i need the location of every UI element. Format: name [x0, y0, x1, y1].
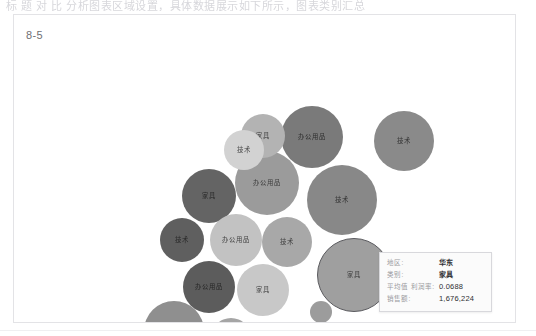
- bubble-label: 家具: [347, 271, 361, 279]
- bubble[interactable]: 技术: [374, 111, 434, 171]
- bubble-label: 办公用品: [222, 236, 250, 244]
- bubble[interactable]: 办公用品: [210, 214, 262, 266]
- tooltip-key: 销售额:: [387, 293, 439, 305]
- bubble-label: 办公用品: [253, 179, 281, 187]
- bubble-label: 办公用品: [195, 283, 223, 291]
- tooltip-key: 平均值 利润率:: [387, 281, 439, 293]
- bubble[interactable]: 办公用品: [183, 261, 235, 313]
- bubble-label: 技术: [397, 137, 411, 145]
- bubble-label: 技术: [237, 146, 251, 154]
- tooltip-value: 华东: [439, 257, 453, 269]
- tooltip-key: 地区:: [387, 257, 439, 269]
- bubble[interactable]: [310, 301, 332, 322]
- panel-title: 8-5: [26, 29, 43, 42]
- bubble[interactable]: 技术: [224, 130, 264, 170]
- bubble[interactable]: 技术: [262, 217, 312, 267]
- bubble[interactable]: 家具: [237, 264, 289, 316]
- tooltip-value: 家具: [439, 269, 453, 281]
- bubble-label: 办公用品: [298, 133, 326, 141]
- tooltip-value: 1,676,224: [439, 293, 474, 305]
- bubble-label: 家具: [256, 286, 270, 294]
- tooltip-row: 类别:家具: [387, 269, 485, 281]
- bubble[interactable]: 技术: [160, 218, 204, 262]
- page-bottom-rule: [0, 330, 536, 331]
- bubble-label: 技术: [335, 196, 349, 204]
- bubble[interactable]: 办公用品: [281, 106, 343, 168]
- bubble[interactable]: 技术: [307, 165, 377, 235]
- tooltip-row: 销售额:1,676,224: [387, 293, 485, 305]
- tooltip-row: 地区:华东: [387, 257, 485, 269]
- tooltip-value: 0.0688: [439, 281, 463, 293]
- bubble[interactable]: [211, 318, 251, 322]
- tooltip-row: 平均值 利润率:0.0688: [387, 281, 485, 293]
- chart-tooltip: 地区:华东类别:家具平均值 利润率:0.0688销售额:1,676,224: [379, 252, 492, 312]
- dashboard-panel: 8-5 家具技术办公用品办公用品技术家具家具办公用品办公用品家具技术家具技术技术…: [13, 14, 516, 323]
- bubble-label: 技术: [280, 238, 294, 246]
- bubble-label: 家具: [202, 192, 216, 200]
- cropped-header-text: 标 题 对 比 分析图表区域设置，具体数据展示如下所示，图表类别汇总: [0, 0, 536, 11]
- tooltip-key: 类别:: [387, 269, 439, 281]
- bubble-label: 技术: [175, 236, 189, 244]
